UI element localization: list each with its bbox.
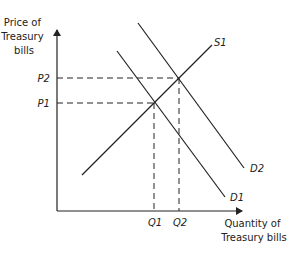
price-tick-p2: P2 <box>38 73 50 84</box>
label-d2: D2 <box>250 163 264 174</box>
quantity-tick-q1: Q1 <box>148 217 162 228</box>
quantity-tick-q2: Q2 <box>173 217 187 228</box>
price-tick-p1: P1 <box>38 98 50 109</box>
x-axis-title: Quantity of Treasury bills <box>220 218 286 243</box>
label-s1: S1 <box>214 37 227 48</box>
label-d1: D1 <box>230 192 244 203</box>
supply-demand-diagram: Price of Treasury bills P2 P1 Q1 Q2 S1 D… <box>0 0 289 255</box>
supply-curve-s1 <box>82 45 212 175</box>
y-axis-title: Price of Treasury bills <box>0 17 47 56</box>
